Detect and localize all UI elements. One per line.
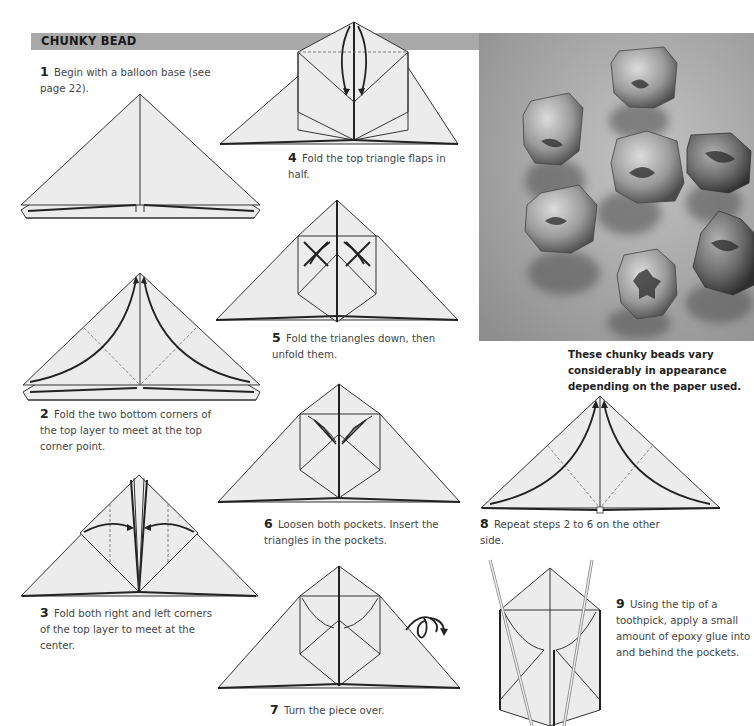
step-9-text: 9 Using the tip of a toothpick, apply a … <box>616 596 754 661</box>
step-5-diagram <box>214 198 459 323</box>
step-9-diagram <box>492 560 602 726</box>
step-4-text: 4 Fold the top triangle flaps in half. <box>288 150 458 183</box>
step-6-text: 6 Loosen both pockets. Insert the triang… <box>264 516 464 549</box>
bead <box>611 131 684 203</box>
step-6-diagram <box>216 384 461 504</box>
bead <box>687 133 751 193</box>
step-8-diagram <box>478 394 730 514</box>
step-7-text: 7 Turn the piece over. <box>270 702 470 719</box>
beads-photo <box>479 33 754 341</box>
section-title: CHUNKY BEAD <box>41 34 137 48</box>
step-8-text: 8 Repeat steps 2 to 6 on the other side. <box>480 516 660 549</box>
step-3-text: 3 Fold both right and left corners of th… <box>40 605 215 654</box>
photo-caption: These chunky beads vary considerably in … <box>568 347 754 395</box>
step-5-text: 5 Fold the triangles down, then unfold t… <box>272 330 452 363</box>
turn-over-arrow-icon <box>404 614 448 644</box>
bead <box>611 47 677 108</box>
bead <box>523 93 583 165</box>
step-2-text: 2 Fold the two bottom corners of the top… <box>40 406 215 455</box>
step-4-diagram <box>218 22 458 147</box>
